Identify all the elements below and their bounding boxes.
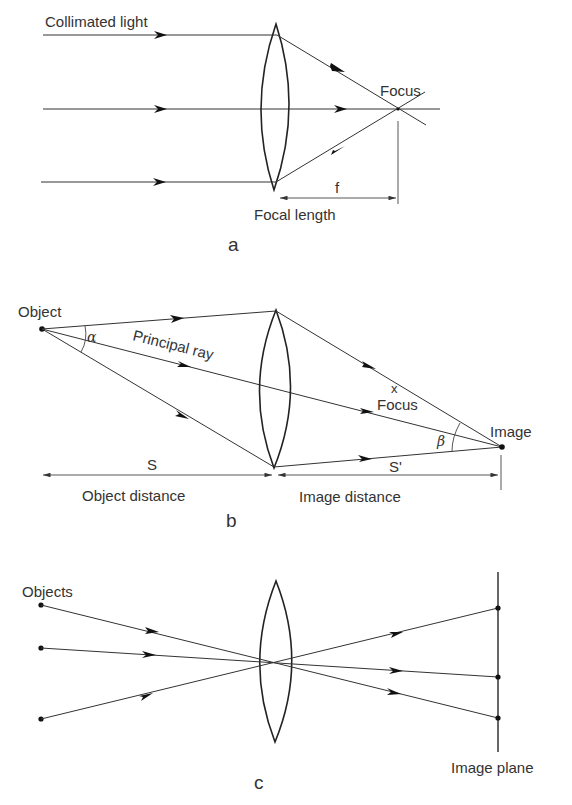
panel-c: Objects Image plane c: [22, 572, 534, 793]
object-label: Object: [18, 303, 62, 320]
ray-to-lens-top: [42, 311, 276, 329]
chief-ray-3: [41, 608, 498, 719]
focus-point-a: [396, 107, 399, 110]
f-label: f: [335, 179, 340, 196]
focus-label-b: Focus: [377, 396, 418, 413]
refracted-ray-bottom: [276, 92, 425, 182]
convex-lens-a: [261, 24, 289, 190]
panel-label-c: c: [254, 772, 264, 793]
arrow-icon: [175, 410, 189, 419]
arrow-icon: [389, 632, 403, 638]
focal-length-label: Focal length: [254, 206, 336, 223]
arrow-icon: [145, 627, 159, 634]
image-point: [499, 444, 505, 450]
ray-to-image-bottom: [274, 447, 502, 467]
panel-label-b: b: [226, 510, 237, 531]
chief-ray-2: [41, 648, 498, 677]
refracted-ray-top: [277, 35, 426, 125]
ray-to-lens-bottom: [42, 329, 274, 467]
principal-ray: [42, 329, 502, 447]
arrow-icon: [362, 361, 376, 369]
principal-ray-label: Principal ray: [131, 326, 216, 363]
focus-mark: x: [391, 381, 398, 396]
image-point-1: [495, 605, 500, 610]
panel-a: Collimated light Focus f Focal length a: [41, 13, 440, 255]
panel-label-a: a: [228, 234, 239, 255]
image-label: Image: [490, 423, 532, 440]
beta-arc: [452, 423, 460, 451]
image-plane-label: Image plane: [451, 759, 534, 776]
arrow-icon: [330, 63, 345, 72]
alpha-label: α: [87, 329, 97, 345]
panel-b: Object α Principal ray x Focus β Image: [18, 303, 532, 531]
image-distance-label: Image distance: [299, 488, 401, 505]
s-prime-label: S': [389, 458, 402, 475]
beta-label: β: [436, 433, 445, 449]
focus-label-a: Focus: [380, 82, 421, 99]
image-point-3: [495, 715, 500, 720]
objects-label: Objects: [22, 583, 73, 600]
image-point-2: [495, 674, 500, 679]
object-distance-label: Object distance: [82, 487, 185, 504]
arrow-icon: [358, 455, 372, 462]
collimated-light-label: Collimated light: [45, 13, 148, 30]
ray-to-image-top: [276, 311, 502, 447]
chief-ray-1: [41, 605, 498, 718]
s-label: S: [147, 456, 157, 473]
optics-diagram: Collimated light Focus f Focal length a …: [0, 0, 572, 805]
